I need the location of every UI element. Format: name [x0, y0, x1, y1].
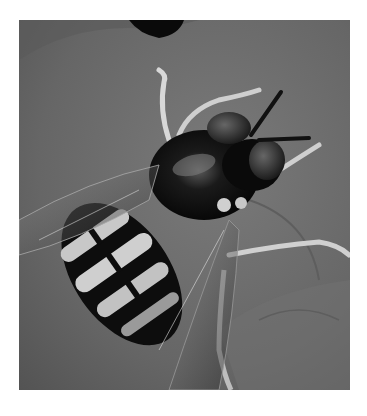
- eye-right: [249, 140, 285, 180]
- photo-canvas: [19, 20, 350, 390]
- insect-photo: [19, 20, 350, 390]
- eye-left: [207, 112, 251, 144]
